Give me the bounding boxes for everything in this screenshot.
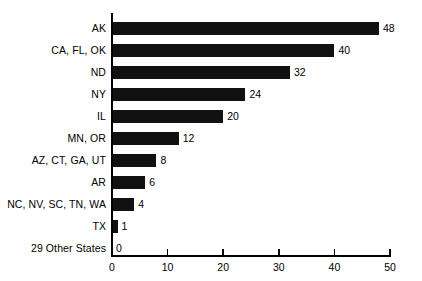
x-axis-tick: [334, 249, 336, 255]
x-axis-tick-label: 50: [375, 261, 405, 274]
category-label: CA, FL, OK: [0, 44, 106, 57]
y-axis-line: [111, 13, 113, 256]
category-label: 29 Other States: [0, 242, 106, 255]
category-label: AK: [0, 22, 106, 35]
x-axis-tick: [167, 249, 169, 255]
bar-value-label: 4: [138, 198, 144, 211]
bar-chart: AKCA, FL, OKNDNYILMN, ORAZ, CT, GA, UTAR…: [0, 0, 422, 281]
x-axis-line: [111, 255, 391, 257]
bar-value-label: 24: [249, 88, 261, 101]
category-label: AR: [0, 176, 106, 189]
plot-area: 48403224201286410: [112, 0, 422, 281]
category-label: ND: [0, 66, 106, 79]
bar: [112, 154, 156, 167]
bar-value-label: 12: [183, 132, 195, 145]
x-axis-tick: [278, 249, 280, 255]
category-axis-labels: AKCA, FL, OKNDNYILMN, ORAZ, CT, GA, UTAR…: [0, 0, 106, 281]
category-label: TX: [0, 220, 106, 233]
bar: [112, 88, 245, 101]
bar: [112, 66, 290, 79]
bar-value-label: 0: [116, 242, 122, 255]
category-label: AZ, CT, GA, UT: [0, 154, 106, 167]
x-axis-tick-label: 20: [208, 261, 238, 274]
bar: [112, 176, 145, 189]
bar-value-label: 20: [227, 110, 239, 123]
x-axis-tick-label: 0: [97, 261, 127, 274]
bar: [112, 132, 179, 145]
category-label: NY: [0, 88, 106, 101]
x-axis-tick: [389, 249, 391, 255]
category-label: NC, NV, SC, TN, WA: [0, 198, 106, 211]
bar-value-label: 6: [149, 176, 155, 189]
bar: [112, 44, 334, 57]
x-axis-tick: [222, 249, 224, 255]
bar: [112, 110, 223, 123]
x-axis-tick-label: 30: [264, 261, 294, 274]
bar: [112, 198, 134, 211]
bar: [112, 22, 379, 35]
bar-value-label: 40: [338, 44, 350, 57]
bar-value-label: 8: [160, 154, 166, 167]
x-axis-tick-label: 40: [319, 261, 349, 274]
bar-value-label: 1: [122, 220, 128, 233]
category-label: MN, OR: [0, 132, 106, 145]
x-axis-tick-label: 10: [153, 261, 183, 274]
bar-value-label: 48: [383, 22, 395, 35]
bar-value-label: 32: [294, 66, 306, 79]
category-label: IL: [0, 110, 106, 123]
